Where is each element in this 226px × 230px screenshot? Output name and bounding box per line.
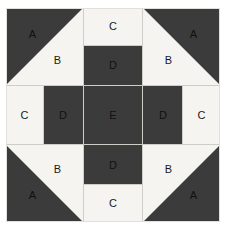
label-text: A	[29, 29, 37, 40]
seam-edge-right-inner	[182, 85, 183, 145]
quilt-block-figure: A B C D A B C D E	[0, 0, 226, 230]
patch-d-edge-top: D	[83, 45, 143, 85]
label-text: D	[159, 110, 167, 121]
patch-c-edge-top: C	[83, 8, 143, 45]
patch-d-edge-bottom: D	[83, 145, 143, 185]
patch-c-edge-left: C	[6, 85, 43, 145]
label-text: A	[190, 29, 198, 40]
seam-edge-top-inner	[83, 45, 143, 46]
seam-edge-bottom-inner	[83, 184, 143, 185]
label-text: C	[197, 110, 205, 121]
patch-e-center: E	[83, 85, 143, 145]
label-text: C	[109, 21, 117, 32]
label-text: C	[109, 198, 117, 209]
patch-d-edge-right: D	[143, 85, 183, 145]
patch-label-b-bottom-left: B	[32, 145, 83, 194]
seam-horizontal-bottom	[6, 144, 220, 145]
label-text: A	[190, 190, 198, 201]
patch-c-edge-bottom: C	[83, 185, 143, 222]
patch-label-b-top-left: B	[32, 36, 83, 85]
seam-edge-left-inner	[43, 85, 44, 145]
patch-d-edge-left: D	[43, 85, 83, 145]
label-text: D	[109, 160, 117, 171]
label-text: E	[109, 110, 117, 121]
label-text: B	[165, 55, 173, 66]
seam-vertical-right	[142, 8, 143, 222]
patch-label-b-top-right: B	[143, 36, 194, 85]
label-text: B	[54, 164, 62, 175]
seam-horizontal-top	[6, 85, 220, 86]
label-text: A	[29, 190, 37, 201]
label-text: B	[165, 164, 173, 175]
label-text: C	[20, 110, 28, 121]
label-text: D	[109, 60, 117, 71]
patch-label-b-bottom-right: B	[143, 145, 194, 194]
label-text: D	[59, 110, 67, 121]
seam-vertical-left	[83, 8, 84, 222]
patch-c-edge-right: C	[183, 85, 220, 145]
quilt-block-grid: A B C D A B C D E	[6, 8, 220, 222]
label-text: B	[54, 55, 62, 66]
